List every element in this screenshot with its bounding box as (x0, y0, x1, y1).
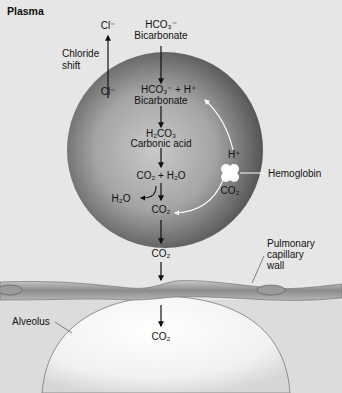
cl-top-label: Cl⁻ (100, 20, 116, 31)
h-plus-label: H⁺ (226, 149, 242, 160)
endothelial-nucleus-right (257, 285, 285, 295)
bicarbonate-plasma-formula: HCO₃⁻ (126, 19, 196, 30)
co2-cell-label: CO₂ (146, 204, 176, 215)
co2-water-label: CO₂ + H₂O (126, 170, 196, 181)
cl-bottom-label: Cl⁻ (100, 86, 116, 97)
carbonic-acid-name: Carbonic acid (121, 138, 201, 149)
water-label: H₂O (106, 193, 136, 204)
bicarbonate-plasma-name: Bicarbonate (126, 30, 196, 41)
plasma-title: Plasma (7, 6, 44, 17)
alveolus-label: Alveolus (12, 316, 50, 327)
hemoglobin-label: Hemoglobin (268, 168, 321, 179)
co2-hemoglobin-label: CO₂ (216, 185, 244, 196)
co2-plasma-label: CO₂ (146, 248, 176, 259)
diagram-canvas: Plasma Cl⁻ Chloride shift Cl⁻ HCO₃⁻ Bica… (0, 0, 342, 393)
bicarbonate-cell-name: Bicarbonate (126, 95, 196, 106)
co2-alveolus-label: CO₂ (146, 331, 176, 342)
pulmonary-label-1: Pulmonary (267, 238, 315, 249)
pulmonary-label-2: capillary (267, 249, 304, 260)
chloride-shift-label-2: shift (62, 60, 80, 71)
bicarbonate-cell-formula: HCO₃⁻ + H⁺ (141, 84, 196, 95)
chloride-shift-label-1: Chloride (62, 48, 99, 59)
pulmonary-label-3: wall (267, 260, 284, 271)
hemoglobin-icon (221, 164, 239, 182)
endothelial-nucleus-left (0, 285, 22, 295)
